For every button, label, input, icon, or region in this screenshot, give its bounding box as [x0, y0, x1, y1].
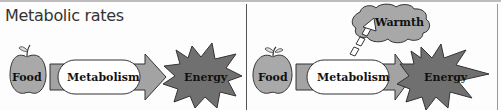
left-panel: Food Metabolism Energy — [10, 43, 242, 108]
energy-label: Energy — [424, 71, 468, 84]
right-panel: Food Metabolism Energy Warmth — [253, 4, 489, 110]
metabolic-rates-diagram: Metabolic rates Food Metabolism Energy — [0, 0, 501, 110]
food-label: Food — [12, 71, 42, 84]
apple-icon — [10, 45, 46, 93]
diagram-canvas: Food Metabolism Energy Food Metabolism E… — [0, 2, 501, 110]
food-label: Food — [258, 71, 288, 84]
metabolism-label: Metabolism — [317, 71, 390, 84]
energy-label: Energy — [184, 71, 228, 84]
warmth-label: Warmth — [374, 16, 424, 29]
metabolism-label: Metabolism — [67, 71, 140, 84]
